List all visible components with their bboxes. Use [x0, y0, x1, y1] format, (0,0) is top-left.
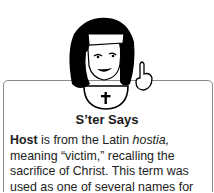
latin-term: hostia,: [133, 133, 170, 147]
nun-pointing-icon: [64, 12, 156, 110]
sidebar-body-text: Host is from the Latin hostia, meaning “…: [10, 133, 210, 192]
body-text-1: is from the Latin: [38, 133, 133, 147]
body-text-2: meaning “victim,” recalling the sacrific…: [10, 149, 193, 193]
sidebar-title: S’ter Says: [0, 112, 214, 127]
term-host: Host: [10, 133, 38, 147]
